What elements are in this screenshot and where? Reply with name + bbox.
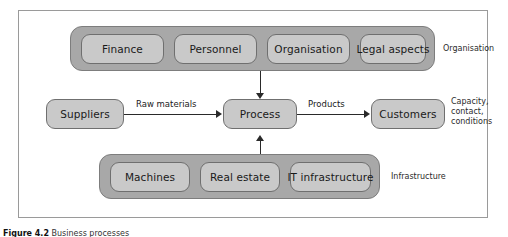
connector-process-to-customers <box>297 114 364 115</box>
node-legal-aspects-label: Legal aspects <box>356 43 429 55</box>
node-customers[interactable]: Customers <box>371 99 445 129</box>
node-legal-aspects[interactable]: Legal aspects <box>360 34 426 64</box>
node-personnel[interactable]: Personnel <box>174 34 257 64</box>
connector-organisation-to-process <box>260 71 261 93</box>
connector-infrastructure-to-process <box>260 141 261 154</box>
figure-caption-text: Business processes <box>52 229 130 237</box>
group-band-organisation: Finance Personnel Organisation Legal asp… <box>70 26 435 71</box>
diagram-frame: Finance Personnel Organisation Legal asp… <box>18 10 488 218</box>
figure-caption-number: Figure 4.2 <box>3 229 49 237</box>
edge-label-products: Products <box>308 99 345 109</box>
arrowhead-process-to-customers <box>364 110 370 118</box>
node-personnel-label: Personnel <box>189 43 241 55</box>
node-suppliers-label: Suppliers <box>60 108 110 120</box>
node-customers-label: Customers <box>379 108 436 120</box>
node-machines-label: Machines <box>125 171 175 183</box>
node-real-estate-label: Real estate <box>210 171 270 183</box>
node-suppliers[interactable]: Suppliers <box>46 99 124 129</box>
arrowhead-infrastructure-to-process <box>256 135 264 141</box>
group-band-infrastructure: Machines Real estate IT infrastructure <box>99 154 380 199</box>
arrowhead-organisation-to-process <box>256 93 264 99</box>
node-it-infrastructure-label: IT infrastructure <box>287 171 373 183</box>
edge-label-raw-materials: Raw materials <box>136 99 197 109</box>
node-finance[interactable]: Finance <box>81 34 164 64</box>
side-label-infrastructure: Infrastructure <box>391 172 446 182</box>
node-machines[interactable]: Machines <box>110 162 190 192</box>
node-process[interactable]: Process <box>223 99 297 129</box>
connector-suppliers-to-process <box>124 114 216 115</box>
figure-caption: Figure 4.2 Business processes <box>3 229 129 237</box>
node-organisation-label: Organisation <box>274 43 342 55</box>
node-organisation[interactable]: Organisation <box>267 34 350 64</box>
note-customer-conditions: Capacity, contact, conditions <box>451 97 492 127</box>
node-finance-label: Finance <box>102 43 143 55</box>
node-process-label: Process <box>240 108 281 120</box>
side-label-organisation: Organisation <box>443 44 494 54</box>
arrowhead-suppliers-to-process <box>216 110 222 118</box>
node-real-estate[interactable]: Real estate <box>200 162 280 192</box>
node-it-infrastructure[interactable]: IT infrastructure <box>290 162 371 192</box>
